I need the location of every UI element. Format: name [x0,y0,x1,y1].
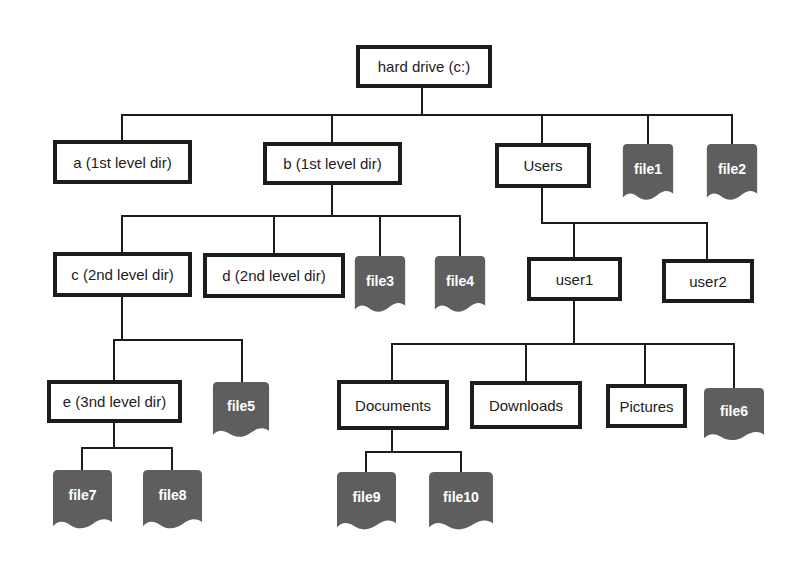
connector-drop-pictures [644,343,646,387]
connector-drop-downloads [525,343,527,384]
file-label-file1: file1 [622,162,674,176]
connector-drop-documents [391,343,393,382]
connector-drop-file2 [731,114,733,145]
dir-label-documents: Documents [355,397,431,414]
dir-label-d: d (2nd level dir) [222,267,325,284]
file-label-file8: file8 [142,488,203,502]
connector-documents-stem [391,430,393,453]
file-node-file3: file3 [354,255,406,319]
connector-drop-d [273,215,275,255]
dir-node-user1: user1 [527,257,622,301]
file-node-file8: file8 [142,469,203,536]
dir-label-user1: user1 [556,271,594,288]
connector-drop-file1 [647,114,649,145]
connector-drop-file3 [379,215,381,257]
dir-node-a: a (1st level dir) [53,140,192,184]
file-node-file6: file6 [703,387,765,447]
file-node-file4: file4 [434,255,486,319]
connector-drop-file6 [733,343,735,389]
file-label-file6: file6 [703,404,765,418]
connector-root-stem [421,86,423,116]
dir-label-a: a (1st level dir) [73,154,171,171]
file-node-file5: file5 [212,381,270,444]
connector-drop-file9 [365,451,367,473]
file-node-file9: file9 [336,471,397,537]
dir-label-c: c (2nd level dir) [71,266,174,283]
dir-node-d: d (2nd level dir) [203,253,345,298]
directory-tree-diagram: hard drive (c:) a (1st level dir) b (1st… [0,0,811,570]
dir-label-e: e (3nd level dir) [63,393,166,410]
file-node-file1: file1 [622,143,674,207]
connector-users-stem [541,185,543,224]
file-label-file4: file4 [434,274,486,288]
connector-c-bus [113,339,243,341]
file-label-file10: file10 [428,490,494,504]
file-node-file10: file10 [428,471,494,537]
connector-drop-b [331,114,333,144]
file-label-file2: file2 [706,162,758,176]
connector-user1-bus [391,343,735,345]
dir-label-pictures: Pictures [619,398,673,415]
connector-documents-bus [365,451,462,453]
connector-drop-file5 [241,339,243,383]
connector-user1-stem [573,298,575,345]
connector-drop-file7 [81,447,83,471]
dir-label-downloads: Downloads [489,397,563,414]
dir-node-documents: Documents [337,380,449,430]
file-label-file3: file3 [354,274,406,288]
file-label-file7: file7 [52,488,113,502]
connector-drop-user2 [706,222,708,261]
dir-node-hard-drive: hard drive (c:) [356,45,492,88]
file-label-file5: file5 [212,399,270,413]
connector-level1-bus [121,114,733,116]
connector-b-bus [121,215,461,217]
dir-label-user2: user2 [689,273,727,290]
connector-e-stem [113,421,115,449]
connector-drop-a [121,114,123,142]
connector-drop-e [113,339,115,382]
connector-c-stem [121,295,123,341]
dir-node-downloads: Downloads [470,381,582,429]
dir-label-users: Users [523,157,562,174]
dir-node-users: Users [495,143,591,188]
connector-e-bus [81,447,173,449]
dir-label-hard-drive: hard drive (c:) [378,58,471,75]
file-node-file7: file7 [52,469,113,536]
connector-drop-user1 [573,222,575,259]
dir-node-b: b (1st level dir) [263,142,402,185]
connector-drop-file10 [460,451,462,473]
connector-drop-file4 [459,215,461,257]
dir-label-b: b (1st level dir) [283,155,381,172]
connector-drop-c [121,215,123,254]
file-node-file2: file2 [706,143,758,207]
connector-b-stem [331,182,333,217]
dir-node-e: e (3nd level dir) [47,380,182,423]
connector-drop-file8 [171,447,173,471]
file-label-file9: file9 [336,490,397,504]
connector-users-bus [541,222,708,224]
connector-drop-users [541,114,543,145]
dir-node-user2: user2 [662,259,754,303]
dir-node-c: c (2nd level dir) [53,252,192,297]
dir-node-pictures: Pictures [606,384,687,428]
